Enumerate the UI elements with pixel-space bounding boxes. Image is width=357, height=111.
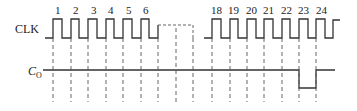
pulse-label: 2 [73,4,79,16]
co-label: CO [28,64,42,80]
co-label-sub: O [36,71,42,80]
pulse-label: 20 [246,4,258,16]
pulse-label: 6 [143,4,149,16]
pulse-label: 19 [228,4,240,16]
pulse-label: 24 [316,4,328,16]
pulse-labels-right: 18 19 20 21 22 23 24 [211,4,328,16]
pulse-label: 3 [91,4,97,16]
pulse-labels-left: 1 2 3 4 5 6 [55,4,149,16]
pulse-label: 18 [211,4,223,16]
timing-diagram: CLK CO 1 2 3 4 5 6 18 19 20 21 22 23 24 [0,0,357,111]
clk-waveform-right [204,19,340,38]
pulse-label: 21 [263,4,274,16]
clk-break-dashed [158,25,193,38]
clk-waveform-left [45,19,158,38]
pulse-label: 4 [108,4,114,16]
clk-label: CLK [15,22,39,36]
pulse-label: 23 [298,4,310,16]
co-waveform [43,70,335,88]
pulse-label: 5 [126,4,132,16]
edge-reference-lines [53,28,316,102]
pulse-label: 1 [55,4,61,16]
pulse-label: 22 [281,4,292,16]
